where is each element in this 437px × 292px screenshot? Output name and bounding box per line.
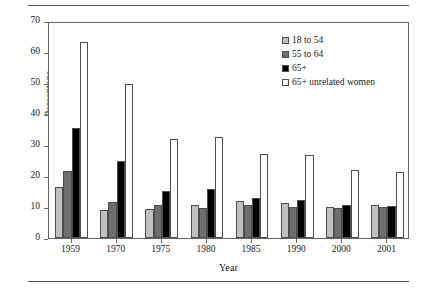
x-tick-label: 1959 (46, 244, 96, 254)
x-axis-title: Year (48, 262, 409, 273)
bar (117, 161, 125, 238)
bar (108, 202, 116, 238)
x-tick-mark (296, 239, 297, 243)
legend-label: 65+ (292, 63, 307, 74)
bar (100, 210, 108, 238)
bar (72, 128, 80, 238)
bar (207, 189, 215, 238)
x-tick-label: 2000 (316, 244, 366, 254)
bar (396, 172, 404, 238)
bar (191, 205, 199, 238)
bar (215, 137, 223, 238)
x-tick-label: 1990 (271, 244, 321, 254)
x-tick-label: 1980 (181, 244, 231, 254)
y-tick-label: 40 (31, 108, 41, 118)
plot-area: 18 to 5455 to 6465+65+ unrelated women (48, 22, 409, 239)
y-tick-label: 10 (31, 201, 41, 211)
y-tick-label: 20 (31, 170, 41, 180)
legend-item: 18 to 54 (282, 33, 422, 47)
bar (379, 207, 387, 238)
bar (252, 198, 260, 238)
bar (199, 208, 207, 238)
legend-item: 65+ unrelated women (282, 75, 422, 89)
bar (63, 171, 71, 238)
legend-swatch (282, 79, 289, 86)
bar (145, 209, 153, 238)
bar (297, 200, 305, 238)
bar (154, 205, 162, 238)
bar (170, 139, 178, 238)
x-tick-mark (341, 239, 342, 243)
legend-label: 65+ unrelated women (292, 77, 375, 88)
bar (371, 205, 379, 238)
y-tick-label: 60 (31, 46, 41, 56)
legend-label: 55 to 64 (292, 49, 323, 60)
x-tick-mark (206, 239, 207, 243)
legend-item: 55 to 64 (282, 47, 422, 61)
bar (326, 207, 334, 238)
x-tick-mark (71, 239, 72, 243)
chart-legend: 18 to 5455 to 6465+65+ unrelated women (282, 33, 422, 89)
bar (260, 154, 268, 238)
y-tick-mark (44, 239, 48, 240)
bar (281, 203, 289, 238)
x-tick-label: 1985 (226, 244, 276, 254)
y-tick-label: 70 (31, 15, 41, 25)
bar (162, 191, 170, 238)
y-tick-label: 30 (31, 139, 41, 149)
bar (351, 170, 359, 238)
x-tick-label: 1970 (91, 244, 141, 254)
bottom-rule (28, 281, 409, 282)
legend-swatch (282, 37, 289, 44)
top-rule (28, 5, 409, 6)
bar (305, 155, 313, 238)
x-tick-mark (251, 239, 252, 243)
bar (125, 84, 133, 238)
x-tick-mark (116, 239, 117, 243)
y-tick-label: 0 (35, 232, 40, 242)
x-tick-mark (161, 239, 162, 243)
bar (244, 205, 252, 238)
figure: Percentage 010203040506070 18 to 5455 to… (0, 0, 437, 292)
bar (80, 42, 88, 238)
x-tick-mark (386, 239, 387, 243)
bar (55, 187, 63, 238)
bar (342, 205, 350, 238)
y-tick-label: 50 (31, 77, 41, 87)
bar (334, 208, 342, 238)
bar (289, 207, 297, 238)
bar (236, 201, 244, 238)
legend-swatch (282, 51, 289, 58)
x-tick-label: 1975 (136, 244, 186, 254)
legend-label: 18 to 54 (292, 35, 323, 46)
x-tick-label: 2001 (361, 244, 411, 254)
legend-item: 65+ (282, 61, 422, 75)
bar (387, 206, 395, 238)
legend-swatch (282, 65, 289, 72)
